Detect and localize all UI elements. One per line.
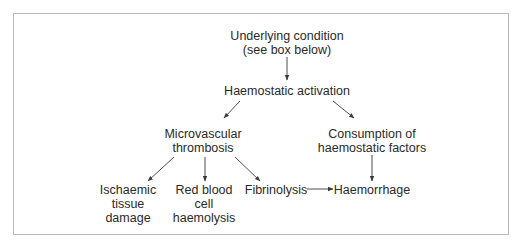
arrow-thrombosis-to-fibrinolysis bbox=[235, 157, 260, 181]
node-haemorrhage: Haemorrhage bbox=[334, 183, 410, 197]
node-haemostatic-activation: Haemostatic activation bbox=[224, 84, 350, 98]
node-consumption-line1: Consumption of bbox=[318, 127, 426, 141]
node-fibrinolysis: Fibrinolysis bbox=[245, 183, 308, 197]
arrow-activation-to-thrombosis bbox=[224, 101, 240, 118]
node-microvascular-thrombosis-line2: thrombosis bbox=[164, 141, 241, 155]
node-rbc-line1: Red blood bbox=[173, 183, 236, 197]
node-underlying-condition-line1: Underlying condition bbox=[230, 29, 343, 43]
node-consumption: Consumption of haemostatic factors bbox=[318, 127, 426, 155]
node-ischaemic-line1: Ischaemic bbox=[100, 183, 156, 197]
node-microvascular-thrombosis: Microvascular thrombosis bbox=[164, 127, 241, 155]
node-haemorrhage-line1: Haemorrhage bbox=[334, 183, 410, 197]
node-microvascular-thrombosis-line1: Microvascular bbox=[164, 127, 241, 141]
node-rbc-line2: cell bbox=[173, 197, 236, 211]
node-haemostatic-activation-line1: Haemostatic activation bbox=[224, 84, 350, 98]
node-ischaemic-tissue-damage: Ischaemic tissue damage bbox=[100, 183, 156, 225]
node-ischaemic-line3: damage bbox=[100, 211, 156, 225]
node-rbc-line3: haemolysis bbox=[173, 211, 236, 225]
node-underlying-condition-line2: (see box below) bbox=[230, 43, 343, 57]
arrow-activation-to-consumption bbox=[333, 101, 354, 118]
node-rbc-haemolysis: Red blood cell haemolysis bbox=[173, 183, 236, 225]
arrow-thrombosis-to-ischaemic bbox=[148, 157, 174, 181]
node-ischaemic-line2: tissue bbox=[100, 197, 156, 211]
node-fibrinolysis-line1: Fibrinolysis bbox=[245, 183, 308, 197]
node-underlying-condition: Underlying condition (see box below) bbox=[230, 29, 343, 57]
node-consumption-line2: haemostatic factors bbox=[318, 141, 426, 155]
